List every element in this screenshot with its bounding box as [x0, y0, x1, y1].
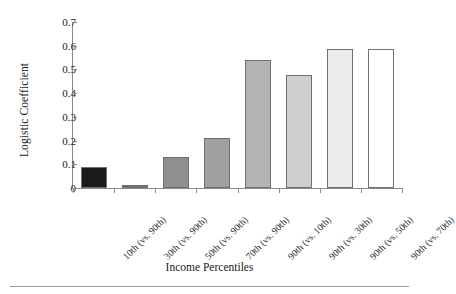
y-axis-tick-label: 0.3 — [30, 111, 76, 123]
x-axis-category-label: 30th (vs. 90th) — [162, 214, 210, 262]
bar-slot — [73, 22, 114, 188]
bar-slot — [238, 22, 279, 188]
bar[interactable] — [368, 49, 394, 188]
footer-rule — [10, 286, 409, 287]
bar-slot — [114, 22, 155, 188]
bar[interactable] — [286, 75, 312, 188]
y-axis-tick-label: 0 — [30, 182, 76, 194]
y-axis-tick-label: 0.5 — [30, 63, 76, 75]
x-axis-tick-mark — [320, 188, 321, 193]
x-axis-category-label: 90th (vs. 10th) — [285, 214, 333, 262]
x-axis-tick-mark — [196, 188, 197, 193]
x-axis-title: Income Percentiles — [0, 261, 419, 273]
bar[interactable] — [163, 157, 189, 188]
bar-slot — [361, 22, 402, 188]
y-axis-tick-label: 0.7 — [30, 16, 76, 28]
bar[interactable] — [122, 185, 148, 188]
bar-slot — [320, 22, 361, 188]
y-axis-tick-label: 0.1 — [30, 158, 76, 170]
x-axis-tick-mark — [279, 188, 280, 193]
y-axis-tick-label: 0.4 — [30, 87, 76, 99]
y-axis-title: Logistic Coefficient — [18, 30, 30, 190]
x-axis-tick-mark — [238, 188, 239, 193]
x-axis-category-label: 10th (vs. 90th) — [121, 214, 169, 262]
bar-series — [73, 22, 402, 188]
x-axis-tick-mark — [114, 188, 115, 193]
bar-slot — [279, 22, 320, 188]
y-axis-tick-label: 0.6 — [30, 40, 76, 52]
bar[interactable] — [81, 167, 107, 188]
x-axis-category-label: 90th (vs. 50th) — [367, 214, 415, 262]
bar[interactable] — [327, 49, 353, 188]
x-axis-tick-mark — [155, 188, 156, 193]
x-axis-tick-mark — [73, 188, 74, 193]
x-axis-tick-mark — [361, 188, 362, 193]
x-axis-category-label: 70th (vs. 90th) — [244, 214, 292, 262]
bar[interactable] — [204, 138, 230, 188]
bar[interactable] — [245, 60, 271, 188]
x-axis-tick-mark — [402, 188, 403, 193]
plot-area: 0.70.60.50.40.30.20.10 10th (vs. 90th)30… — [72, 22, 402, 188]
x-axis-category-label: 90th (vs. 70th) — [408, 214, 456, 262]
bar-slot — [155, 22, 196, 188]
y-axis-tick-label: 0.2 — [30, 135, 76, 147]
bar-slot — [196, 22, 237, 188]
